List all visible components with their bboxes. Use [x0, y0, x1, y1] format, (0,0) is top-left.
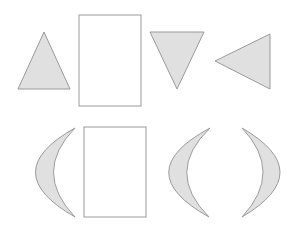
- rectangle-shape-top: [79, 15, 141, 106]
- rectangle-shape-bottom: [84, 127, 146, 217]
- shapes-diagram: [0, 0, 307, 251]
